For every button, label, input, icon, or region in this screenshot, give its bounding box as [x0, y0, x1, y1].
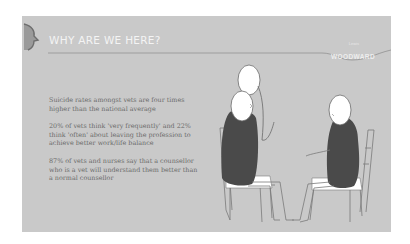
brand-logo: Lewis WOODWARD [331, 42, 375, 62]
statistic-point: 20% of vets think 'very frequently' and … [49, 122, 199, 148]
brand-name: WOODWARD [331, 53, 375, 60]
presentation-slide: WHY ARE WE HERE? Lewis WOODWARD Suicide … [22, 16, 391, 232]
slide-title: WHY ARE WE HERE? [49, 34, 161, 46]
counselling-illustration [200, 60, 391, 232]
statistic-point: Suicide rates amongst vets are four time… [49, 96, 199, 113]
statistics-list: Suicide rates amongst vets are four time… [49, 96, 199, 192]
brand-first-name: Lewis [331, 42, 359, 46]
statistic-point: 87% of vets and nurses say that a counse… [49, 157, 199, 183]
face-profile-icon [22, 22, 48, 52]
